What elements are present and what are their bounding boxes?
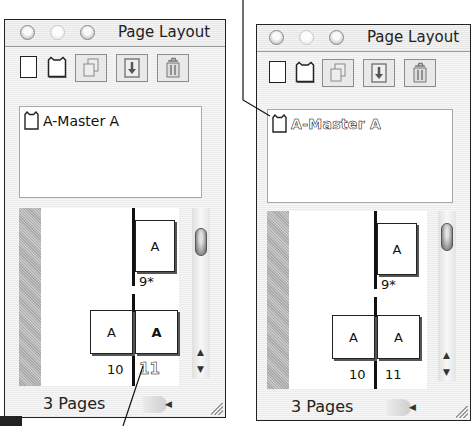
page-number-11: 11	[385, 367, 402, 382]
trash-icon	[164, 57, 182, 79]
master-page-icon	[24, 111, 39, 130]
page-thumbnail-10[interactable]: A	[332, 315, 375, 359]
page-master-letter: A	[349, 330, 358, 345]
page-count: 3 Pages	[291, 397, 353, 416]
plain-page-icon[interactable]	[20, 56, 37, 78]
resize-grip[interactable]	[456, 406, 468, 418]
page-number-9: 9*	[381, 277, 396, 292]
pasteboard-strip	[19, 208, 41, 386]
load-page-icon	[370, 62, 388, 84]
close-button[interactable]	[20, 25, 35, 40]
masters-list[interactable]: A-Master A	[19, 106, 202, 198]
scroll-up-arrow[interactable]: ▲	[443, 351, 450, 360]
page-master-letter: A	[107, 325, 116, 340]
page-number-10: 10	[349, 367, 366, 382]
scroll-up-arrow[interactable]: ▲	[197, 348, 204, 357]
scroll-left-arrow[interactable]: ◀	[165, 399, 172, 409]
minimize-button[interactable]	[299, 30, 314, 45]
master-page-icon[interactable]	[47, 56, 67, 78]
page-count: 3 Pages	[43, 394, 105, 413]
page-number-11: 11	[139, 360, 160, 378]
pages-pane[interactable]: A 9* A A 10 11	[19, 208, 179, 386]
masters-list[interactable]: A-Master A	[267, 109, 453, 203]
palette-title: Page Layout	[367, 28, 459, 46]
page-layout-palette-right: Page Layout A-Master A A 9* A	[256, 24, 471, 421]
page-master-letter: A	[394, 330, 403, 345]
scroll-thumb[interactable]	[441, 223, 453, 251]
plain-page-icon[interactable]	[269, 61, 286, 83]
horizontal-scroll-thumb[interactable]	[387, 399, 411, 416]
close-button[interactable]	[269, 30, 284, 45]
vertical-scrollbar[interactable]: ▲ ▼	[192, 208, 210, 378]
master-page-icon[interactable]	[295, 61, 315, 83]
palette-title: Page Layout	[118, 23, 210, 41]
scroll-left-arrow[interactable]: ◀	[409, 402, 416, 412]
page-number-10: 10	[107, 362, 124, 377]
trash-icon	[411, 62, 429, 84]
page-thumbnail-11[interactable]: A	[135, 310, 178, 354]
page-thumbnail-11[interactable]: A	[377, 315, 420, 359]
master-page-icon	[272, 114, 287, 133]
pages-pane[interactable]: A 9* A A 10 11	[267, 211, 427, 389]
pasteboard-strip	[267, 211, 289, 389]
toolbar	[261, 59, 470, 87]
page-layout-palette-left: Page Layout A-Master A A 9* A	[4, 19, 226, 418]
master-label: A-Master A	[43, 113, 119, 129]
duplicate-spread-button[interactable]	[322, 59, 354, 87]
page-thumbnail-10[interactable]: A	[90, 310, 133, 354]
master-label: A-Master A	[291, 116, 381, 132]
page-thumbnail-9[interactable]: A	[377, 223, 417, 275]
page-number-9: 9*	[139, 274, 154, 289]
duplicate-page-icon	[329, 63, 347, 83]
page-thumbnail-9[interactable]: A	[135, 220, 175, 272]
title-bar[interactable]: Page Layout	[257, 25, 470, 52]
vertical-scrollbar[interactable]: ▲ ▼	[438, 211, 456, 381]
page-master-letter: A	[151, 239, 160, 254]
duplicate-spread-button[interactable]	[75, 54, 107, 82]
load-master-button[interactable]	[116, 54, 148, 82]
master-item-a[interactable]: A-Master A	[24, 111, 119, 130]
delete-page-button[interactable]	[157, 54, 189, 82]
scroll-thumb[interactable]	[195, 228, 207, 256]
title-bar[interactable]: Page Layout	[5, 20, 225, 47]
duplicate-page-icon	[82, 58, 100, 78]
zoom-button[interactable]	[80, 25, 95, 40]
status-bar: 3 Pages ◀	[5, 393, 225, 417]
status-bar: 3 Pages ◀	[257, 396, 470, 420]
page-master-letter: A	[151, 325, 161, 340]
load-page-icon	[123, 57, 141, 79]
load-master-button[interactable]	[363, 59, 395, 87]
delete-page-button[interactable]	[404, 59, 436, 87]
scroll-down-arrow[interactable]: ▼	[443, 368, 450, 377]
legend-marker	[0, 416, 22, 426]
master-item-a[interactable]: A-Master A	[272, 114, 381, 133]
minimize-button[interactable]	[50, 25, 65, 40]
scroll-down-arrow[interactable]: ▼	[197, 365, 204, 374]
horizontal-scroll-thumb[interactable]	[143, 396, 167, 413]
resize-grip[interactable]	[211, 403, 223, 415]
zoom-button[interactable]	[329, 30, 344, 45]
toolbar	[9, 54, 225, 82]
page-master-letter: A	[393, 242, 402, 257]
